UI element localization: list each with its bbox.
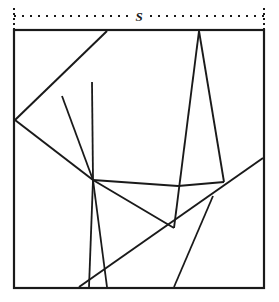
geometric-figure-canvas bbox=[0, 0, 279, 302]
line-right-shelf-horizontal bbox=[178, 182, 224, 186]
outer-square bbox=[14, 30, 264, 288]
line-hub-to-bottom-converge bbox=[93, 180, 107, 287]
line-apex-right-leg bbox=[199, 31, 224, 182]
line-hub-to-right-shelf bbox=[93, 180, 178, 186]
line-lower-right-leg bbox=[174, 196, 213, 287]
line-hub-to-apex-leg bbox=[93, 180, 174, 228]
line-apex-left-leg bbox=[174, 31, 199, 228]
line-hub-to-upper-ray-b bbox=[92, 82, 93, 180]
inner-line-network bbox=[15, 31, 263, 287]
line-long-diagonal bbox=[79, 158, 263, 287]
line-left-vertex-to-top bbox=[15, 31, 107, 120]
line-hub-to-lower-left bbox=[89, 180, 93, 287]
figure-root: S bbox=[0, 0, 279, 302]
dimension-label-s: S bbox=[132, 10, 145, 23]
